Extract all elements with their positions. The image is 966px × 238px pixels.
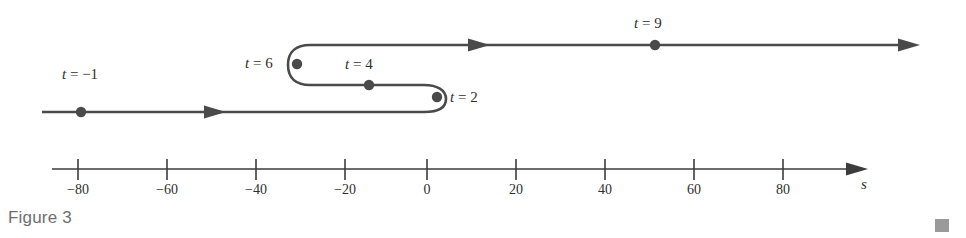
figure-3-motion-diagram: t = −1 t = 6 t = 4 t = 2 t = 9 −80 −60 −… (0, 0, 966, 238)
tick-label-0: 0 (424, 182, 431, 198)
dot-t-4 (364, 80, 374, 90)
figure-caption: Figure 3 (8, 208, 72, 228)
dot-t-6 (292, 59, 302, 69)
tick-label--40: −40 (245, 182, 267, 198)
label-t-minus-1: t = −1 (62, 66, 98, 83)
tick-label-80: 80 (776, 182, 790, 198)
arrowhead-bottom-right (204, 106, 226, 119)
arrowhead-top-right-2 (898, 39, 920, 52)
tick-label-20: 20 (509, 182, 523, 198)
dot-t-minus-1 (76, 107, 86, 117)
time-point-dots (76, 40, 660, 117)
tick-label-40: 40 (598, 182, 612, 198)
dot-t-9 (650, 40, 660, 50)
label-t-9: t = 9 (634, 15, 662, 32)
axis-arrowhead (846, 163, 868, 176)
tick-label-60: 60 (687, 182, 701, 198)
path-direction-arrowheads (204, 39, 920, 119)
label-t-6: t = 6 (245, 55, 273, 72)
s-axis (52, 159, 852, 180)
axis-name-s: s (861, 176, 867, 193)
tick-label--80: −80 (67, 182, 89, 198)
dot-t-2 (432, 92, 442, 102)
label-t-4: t = 4 (345, 56, 373, 73)
arrowhead-top-right-1 (468, 39, 490, 52)
figure-graphic (0, 0, 966, 238)
tick-label--20: −20 (334, 182, 356, 198)
label-t-2: t = 2 (450, 89, 478, 106)
corner-mark (935, 219, 949, 232)
tick-label--60: −60 (156, 182, 178, 198)
